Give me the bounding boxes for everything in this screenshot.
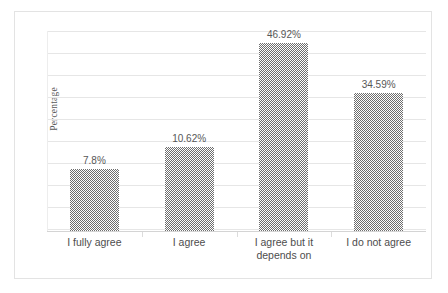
plot-area: 7.8% 10.62% 46.92% [47, 31, 426, 232]
bar[interactable]: 46.92% [259, 43, 308, 232]
bar-value-label: 34.59% [362, 79, 396, 90]
bar-value-label: 46.92% [267, 29, 301, 40]
x-axis-line [47, 231, 426, 232]
category-label: I agree [142, 236, 237, 262]
bar[interactable]: 10.62% [165, 147, 214, 232]
bar-value-label: 7.8% [83, 155, 106, 166]
category-label: I do not agree [331, 236, 426, 262]
bars-layer: 7.8% 10.62% 46.92% [47, 31, 426, 232]
bar-slot: 7.8% [47, 31, 142, 232]
category-axis: I fully agree I agree I agree but it dep… [47, 236, 426, 262]
bar[interactable]: 34.59% [354, 93, 403, 232]
category-label-line: I agree [144, 236, 235, 249]
category-label-line: depends on [239, 249, 330, 262]
category-label-line: I do not agree [333, 236, 424, 249]
chart-frame: Percentage 7.8% [14, 11, 432, 279]
bar[interactable]: 7.8% [70, 169, 119, 232]
category-label-line: I fully agree [49, 236, 140, 249]
category-label: I fully agree [47, 236, 142, 262]
bar-slot: 46.92% [237, 31, 332, 232]
bar-slot: 34.59% [331, 31, 426, 232]
category-label: I agree but it depends on [237, 236, 332, 262]
bar-chart: Percentage 7.8% [0, 0, 448, 293]
category-label-line: I agree but it [239, 236, 330, 249]
bar-value-label: 10.62% [172, 133, 206, 144]
bar-slot: 10.62% [142, 31, 237, 232]
